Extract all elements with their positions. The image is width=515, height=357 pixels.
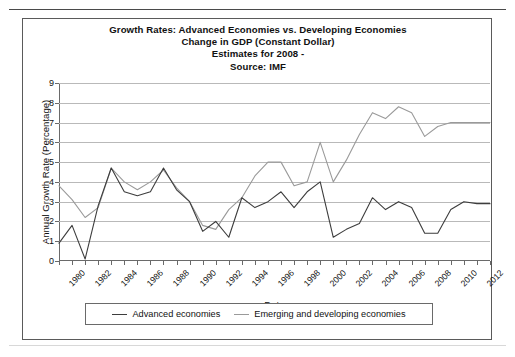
x-tick-mark (242, 261, 243, 265)
x-tick-mark (177, 261, 178, 265)
x-tick-label: 1980 (67, 268, 87, 288)
x-tick-mark (490, 261, 491, 265)
x-tick-mark (216, 261, 217, 265)
x-tick-mark (137, 261, 138, 265)
x-tick-mark (281, 261, 282, 265)
x-tick-label: 2002 (355, 268, 375, 288)
x-tick-label: 2006 (407, 268, 427, 288)
x-tick-mark (412, 261, 413, 265)
x-tick-label: 2010 (459, 268, 479, 288)
x-tick-mark (438, 261, 439, 265)
x-tick-label: 2000 (328, 268, 348, 288)
series-line (59, 107, 490, 230)
x-tick-mark (386, 261, 387, 265)
x-tick-mark (359, 261, 360, 265)
legend-label-advanced: Advanced economies (132, 309, 220, 319)
x-tick-mark (333, 261, 334, 265)
x-tick-label: 1992 (224, 268, 244, 288)
x-tick-mark (150, 261, 151, 265)
x-tick-mark (294, 261, 295, 265)
legend-swatch-emerging-icon (234, 314, 249, 315)
x-tick-label: 1998 (302, 268, 322, 288)
x-tick-label: 1988 (172, 268, 192, 288)
x-tick-mark (464, 261, 465, 265)
x-tick-mark (425, 261, 426, 265)
x-tick-label: 1982 (93, 268, 113, 288)
x-tick-mark (124, 261, 125, 265)
y-axis-label: Annual Growth Rate (Percentage) (40, 100, 51, 245)
bottom-divider (9, 345, 506, 346)
x-tick-mark (346, 261, 347, 265)
plot-area: 0123456789 19801982198419861988199019921… (59, 83, 490, 261)
chart-container: Growth Rates: Advanced Economies vs. Dev… (22, 18, 492, 340)
legend-swatch-advanced-icon (112, 314, 127, 315)
x-tick-mark (72, 261, 73, 265)
plot-wrapper: 0123456789 19801982198419861988199019921… (23, 19, 493, 341)
x-tick-label: 1994 (250, 268, 270, 288)
x-tick-label: 1990 (198, 268, 218, 288)
x-tick-mark (320, 261, 321, 265)
x-tick-mark (163, 261, 164, 265)
x-tick-mark (190, 261, 191, 265)
x-tick-mark (268, 261, 269, 265)
x-tick-mark (451, 261, 452, 265)
x-tick-mark (255, 261, 256, 265)
x-tick-label: 2004 (381, 268, 401, 288)
chart-legend: Advanced economies Emerging and developi… (85, 303, 433, 325)
x-tick-label: 2008 (433, 268, 453, 288)
x-tick-mark (85, 261, 86, 265)
x-tick-label: 1984 (119, 268, 139, 288)
x-tick-mark (372, 261, 373, 265)
series-lines (59, 83, 490, 261)
legend-item-advanced: Advanced economies (112, 309, 220, 319)
x-tick-mark (229, 261, 230, 265)
legend-label-emerging: Emerging and developing economies (254, 309, 405, 319)
x-tick-mark (203, 261, 204, 265)
x-tick-mark (477, 261, 478, 265)
top-divider (9, 9, 506, 10)
x-tick-mark (399, 261, 400, 265)
x-tick-mark (98, 261, 99, 265)
x-tick-label: 1996 (276, 268, 296, 288)
x-tick-mark (111, 261, 112, 265)
x-tick-label: 2012 (485, 268, 505, 288)
screenshot-page: Growth Rates: Advanced Economies vs. Dev… (0, 0, 515, 357)
x-tick-mark (59, 261, 60, 265)
y-tick-label: 0 (49, 257, 54, 266)
y-tick-label: 9 (49, 79, 54, 88)
x-tick-mark (307, 261, 308, 265)
x-tick-label: 1986 (146, 268, 166, 288)
legend-item-emerging: Emerging and developing economies (234, 309, 405, 319)
